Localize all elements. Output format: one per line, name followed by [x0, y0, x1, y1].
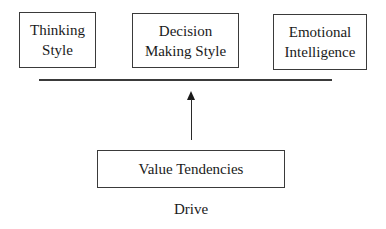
arrow-shaft	[191, 99, 192, 140]
decision-making-style-line2: Making Style	[145, 41, 226, 61]
emotional-intelligence-box: Emotional Intelligence	[273, 14, 367, 70]
decision-making-style-line1: Decision	[159, 21, 212, 41]
value-tendencies-box: Value Tendencies	[97, 150, 285, 188]
decision-making-style-box: Decision Making Style	[132, 13, 239, 68]
drive-caption: Drive	[141, 201, 241, 218]
emotional-intelligence-line1: Emotional	[289, 22, 352, 42]
thinking-style-box: Thinking Style	[19, 12, 96, 68]
thinking-style-line2: Style	[42, 40, 73, 60]
emotional-intelligence-line2: Intelligence	[285, 42, 356, 62]
thinking-style-line1: Thinking	[30, 20, 85, 40]
grouping-line	[39, 79, 332, 81]
value-tendencies-label: Value Tendencies	[139, 159, 244, 179]
